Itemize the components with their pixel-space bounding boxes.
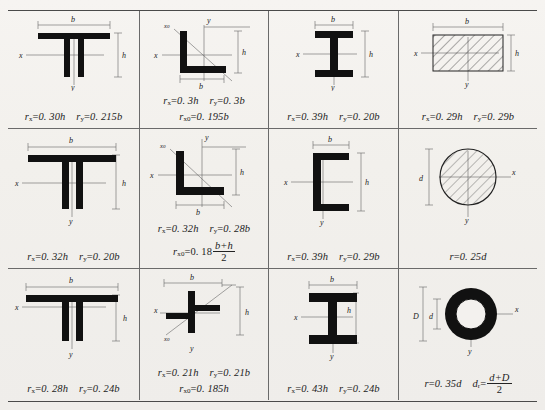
svg-text:b: b	[328, 135, 332, 144]
figure-solid-circle: d x y	[399, 129, 537, 250]
table-cell-r3c2[interactable]: b h x x0 y rx=0. 21h ry=0. 21b	[140, 269, 269, 400]
svg-text:b: b	[331, 15, 335, 24]
table-cell-r1c4[interactable]: b h x y rx=0. 29h ry=0. 29b	[399, 11, 537, 128]
formula-line: rx=0. 43h ry=0. 24b	[269, 382, 398, 396]
formula-line: rx=0. 39h ry=0. 20b	[269, 110, 398, 124]
svg-text:x: x	[153, 51, 158, 60]
figure-i-beam-narrow-flange: b h x y	[269, 11, 398, 110]
svg-text:x: x	[514, 305, 519, 314]
figure-double-tee-shallow: b h x y	[8, 269, 139, 382]
figure-solid-rectangle: b h x y	[399, 11, 537, 110]
formula-block: rx=0. 30h ry=0. 215b	[8, 110, 139, 128]
table-cell-r2c4[interactable]: d x y r=0. 25d	[399, 129, 537, 268]
svg-text:x: x	[14, 303, 19, 312]
formula-block: rx=0. 32h ry=0. 28b rx0=0. 18b+h2	[140, 222, 268, 268]
svg-text:x: x	[283, 178, 288, 187]
figure-double-tee-back-to-back: b h x y	[8, 11, 139, 110]
svg-text:y: y	[189, 344, 194, 353]
formula-block: rx=0. 32h ry=0. 20b	[8, 250, 139, 268]
svg-text:x: x	[14, 179, 19, 188]
svg-text:b: b	[190, 273, 194, 282]
svg-text:x: x	[293, 313, 298, 322]
svg-text:h: h	[515, 49, 519, 58]
figure-i-beam-wide-flange: b h x y	[269, 269, 398, 382]
svg-text:h: h	[365, 178, 369, 187]
figure-hollow-circular-tube: D d x y	[399, 269, 537, 372]
formula-line: r=0. 35d dr=d+D2	[399, 372, 537, 396]
formula-block: r=0. 25d	[399, 250, 537, 268]
formula-block: rx=0. 39h ry=0. 29b	[269, 250, 398, 268]
formula-line: r=0. 25d	[399, 250, 537, 264]
svg-text:y: y	[319, 218, 324, 227]
svg-text:h: h	[123, 314, 127, 323]
formula-block: rx=0. 39h ry=0. 20b	[269, 110, 398, 128]
svg-text:y: y	[206, 16, 211, 25]
figure-double-tee-wide-flange: b h x y	[8, 129, 139, 250]
cross-section-properties-table: b h x y rx=0. 30h ry=0. 215b	[8, 10, 537, 402]
svg-text:h: h	[369, 50, 373, 59]
svg-text:y: y	[464, 216, 469, 225]
svg-text:x: x	[295, 50, 300, 59]
svg-text:x0: x0	[163, 22, 170, 29]
formula-line: rx=0. 28h ry=0. 24b	[8, 382, 139, 396]
svg-text:b: b	[465, 17, 469, 26]
svg-text:b: b	[330, 275, 334, 284]
table-cell-r1c2[interactable]: x0 y h x b rx=0. 3h ry=0. 3b	[140, 11, 269, 128]
table-cell-r3c4[interactable]: D d x y r=0. 35d dr=d+D2	[399, 269, 537, 400]
table-row: b h x y rx=0. 32h ry=0. 20b	[8, 129, 537, 269]
svg-text:b: b	[199, 82, 203, 91]
svg-text:y: y	[329, 352, 334, 361]
figure-channel-section: b h x y	[269, 129, 398, 250]
svg-text:d: d	[429, 312, 434, 321]
svg-text:x0: x0	[163, 335, 170, 342]
formula-line: rx=0. 39h ry=0. 29b	[269, 250, 398, 264]
formula-block: rx=0. 43h ry=0. 24b	[269, 382, 398, 400]
svg-text:b: b	[196, 208, 200, 217]
table-row: b h x y rx=0. 28h ry=0. 24b	[8, 269, 537, 400]
table-cell-r2c1[interactable]: b h x y rx=0. 32h ry=0. 20b	[8, 129, 140, 268]
fraction: b+h2	[213, 240, 235, 264]
table-cell-r1c1[interactable]: b h x y rx=0. 30h ry=0. 215b	[8, 11, 140, 128]
svg-text:h: h	[242, 48, 246, 57]
svg-text:y: y	[68, 217, 73, 226]
svg-text:y: y	[467, 347, 472, 356]
svg-text:h: h	[245, 308, 249, 317]
table-cell-r3c1[interactable]: b h x y rx=0. 28h ry=0. 24b	[8, 269, 140, 400]
svg-text:h: h	[122, 51, 126, 60]
formula-line-fraction: rx0=0. 18b+h2	[140, 240, 268, 264]
formula-line: rx=0. 32h ry=0. 20b	[8, 250, 139, 264]
table-cell-r3c3[interactable]: b h x y rx=0. 43h ry=0. 24b	[269, 269, 399, 400]
svg-text:b: b	[71, 15, 75, 24]
svg-text:x: x	[413, 49, 418, 58]
table-cell-r1c3[interactable]: b h x y rx=0. 39h ry=0. 20b	[269, 11, 399, 128]
svg-text:b: b	[69, 276, 73, 285]
figure-equal-leg-angle: x0 y h x b	[140, 11, 268, 94]
fraction: d+D2	[487, 372, 511, 396]
formula-block: rx=0. 21h ry=0. 21b rx0=0. 185h	[140, 366, 268, 400]
formula-block: r=0. 35d dr=d+D2	[399, 372, 537, 400]
svg-text:d: d	[419, 174, 424, 183]
svg-text:y: y	[70, 83, 75, 91]
table-cell-r2c2[interactable]: x0 y h x b rx=0. 32h ry=0. 28b	[140, 129, 269, 268]
svg-text:b: b	[69, 136, 73, 145]
formula-line: rx0=0. 195b	[140, 110, 268, 124]
svg-text:y: y	[330, 83, 335, 91]
svg-text:y: y	[464, 80, 469, 89]
table-cell-r2c3[interactable]: b h x y rx=0. 39h ry=0. 29b	[269, 129, 399, 268]
svg-text:x: x	[149, 171, 154, 180]
svg-text:x: x	[511, 168, 516, 177]
figure-cruciform-double-angle: b h x x0 y	[140, 269, 268, 366]
formula-line: rx=0. 21h ry=0. 21b	[140, 366, 268, 380]
svg-text:h: h	[122, 179, 126, 188]
formula-block: rx=0. 29h ry=0. 29b	[399, 110, 537, 128]
formula-line: rx=0. 29h ry=0. 29b	[399, 110, 537, 124]
svg-text:x0: x0	[159, 142, 166, 149]
svg-text:D: D	[412, 312, 419, 321]
svg-text:y: y	[204, 133, 209, 142]
formula-block: rx=0. 28h ry=0. 24b	[8, 382, 139, 400]
formula-line: rx=0. 30h ry=0. 215b	[8, 110, 139, 124]
svg-text:h: h	[240, 168, 244, 177]
formula-line: rx=0. 3h ry=0. 3b	[140, 94, 268, 108]
svg-text:h: h	[347, 306, 351, 315]
formula-line: rx0=0. 185h	[140, 382, 268, 396]
